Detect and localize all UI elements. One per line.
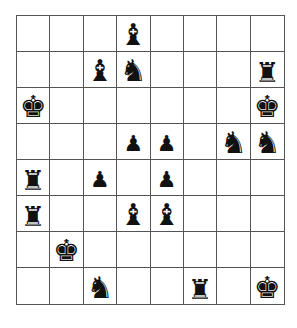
board-square[interactable]: ♚: [50, 232, 83, 268]
board-square[interactable]: [50, 160, 83, 196]
board-square[interactable]: ♝: [84, 52, 117, 88]
board-square[interactable]: [184, 196, 217, 232]
board-square[interactable]: [151, 88, 184, 124]
board-square[interactable]: ♜: [17, 196, 50, 232]
black-bishop-icon[interactable]: ♝: [153, 200, 180, 231]
black-pawn-icon[interactable]: ♟: [157, 169, 177, 195]
board-square[interactable]: [184, 52, 217, 88]
board-square[interactable]: [17, 16, 50, 52]
board-square[interactable]: [217, 232, 250, 268]
board-square[interactable]: [17, 124, 50, 160]
board-square[interactable]: ♞: [251, 124, 284, 160]
board-square[interactable]: ♟: [151, 160, 184, 196]
board-square[interactable]: [117, 88, 150, 124]
board-square[interactable]: [184, 160, 217, 196]
black-pawn-icon[interactable]: ♟: [123, 133, 143, 159]
chess-board: ♝♝♞♜♚♚♟♟♞♞♜♟♟♜♝♝♚♞♜♚: [16, 15, 285, 305]
board-square[interactable]: [50, 268, 83, 304]
board-square[interactable]: [117, 268, 150, 304]
board-square[interactable]: [217, 52, 250, 88]
black-bishop-icon[interactable]: ♝: [86, 56, 113, 87]
board-square[interactable]: [184, 232, 217, 268]
board-square[interactable]: [151, 52, 184, 88]
board-square[interactable]: [217, 268, 250, 304]
board-square[interactable]: ♟: [84, 160, 117, 196]
board-square[interactable]: ♜: [17, 160, 50, 196]
board-square[interactable]: [84, 196, 117, 232]
board-square[interactable]: ♜: [251, 52, 284, 88]
black-knight-icon[interactable]: ♞: [86, 273, 113, 304]
board-square[interactable]: ♚: [17, 88, 50, 124]
board-square[interactable]: [251, 196, 284, 232]
board-square[interactable]: [151, 232, 184, 268]
board-square[interactable]: [84, 124, 117, 160]
black-pawn-icon[interactable]: ♟: [157, 133, 177, 159]
black-rook-icon[interactable]: ♜: [21, 167, 45, 195]
board-square[interactable]: ♚: [251, 268, 284, 304]
black-knight-icon[interactable]: ♞: [254, 128, 281, 159]
board-square[interactable]: [217, 16, 250, 52]
board-square[interactable]: [117, 232, 150, 268]
board-square[interactable]: [50, 196, 83, 232]
black-bishop-icon[interactable]: ♝: [120, 20, 147, 51]
black-rook-icon[interactable]: ♜: [188, 276, 212, 304]
black-rook-icon[interactable]: ♜: [255, 59, 279, 87]
black-knight-icon[interactable]: ♞: [220, 128, 247, 159]
board-square[interactable]: ♝: [117, 16, 150, 52]
board-square[interactable]: [50, 124, 83, 160]
black-bishop-icon[interactable]: ♝: [120, 200, 147, 231]
board-square[interactable]: [84, 16, 117, 52]
board-square[interactable]: [251, 16, 284, 52]
board-square[interactable]: [217, 88, 250, 124]
board-square[interactable]: ♚: [251, 88, 284, 124]
board-square[interactable]: [50, 52, 83, 88]
board-square[interactable]: [17, 232, 50, 268]
black-king-icon[interactable]: ♚: [254, 273, 281, 304]
board-square[interactable]: ♞: [84, 268, 117, 304]
board-square[interactable]: ♟: [117, 124, 150, 160]
board-square[interactable]: [251, 160, 284, 196]
board-square[interactable]: [17, 52, 50, 88]
board-square[interactable]: [50, 88, 83, 124]
board-square[interactable]: [151, 16, 184, 52]
board-square[interactable]: ♜: [184, 268, 217, 304]
board-square[interactable]: ♞: [117, 52, 150, 88]
board-square[interactable]: ♝: [151, 196, 184, 232]
black-king-icon[interactable]: ♚: [254, 92, 281, 123]
board-square[interactable]: [50, 16, 83, 52]
board-square[interactable]: [217, 160, 250, 196]
board-square[interactable]: [84, 232, 117, 268]
black-knight-icon[interactable]: ♞: [120, 56, 147, 87]
board-square[interactable]: [184, 88, 217, 124]
board-square[interactable]: [151, 268, 184, 304]
board-square[interactable]: [184, 16, 217, 52]
board-square[interactable]: ♝: [117, 196, 150, 232]
board-square[interactable]: [117, 160, 150, 196]
board-square[interactable]: [84, 88, 117, 124]
black-rook-icon[interactable]: ♜: [21, 203, 45, 231]
black-pawn-icon[interactable]: ♟: [90, 169, 110, 195]
black-king-icon[interactable]: ♚: [20, 92, 47, 123]
board-square[interactable]: [217, 196, 250, 232]
board-square[interactable]: [184, 124, 217, 160]
board-square[interactable]: [251, 232, 284, 268]
board-square[interactable]: [17, 268, 50, 304]
board-square[interactable]: ♟: [151, 124, 184, 160]
black-king-icon[interactable]: ♚: [53, 236, 80, 267]
board-square[interactable]: ♞: [217, 124, 250, 160]
